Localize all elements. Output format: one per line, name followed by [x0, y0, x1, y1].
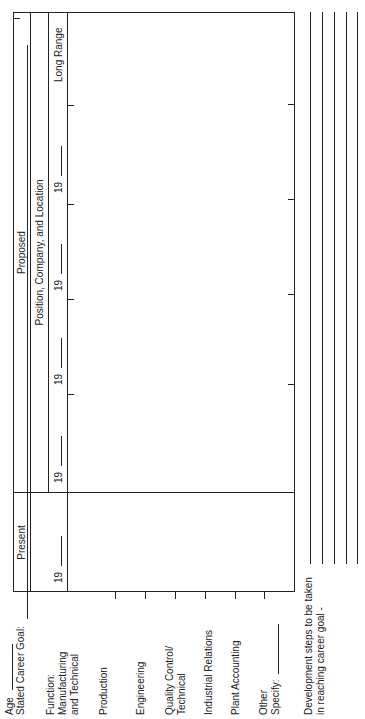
age-label: Age	[4, 697, 15, 715]
col-tick-top	[67, 299, 74, 300]
development-line-5[interactable]	[357, 12, 358, 564]
function-item-other: Other	[258, 690, 270, 715]
row-tick	[145, 592, 146, 599]
year-prefix: 19	[53, 374, 64, 385]
year-blank[interactable]	[61, 436, 62, 466]
career-goal-label: Stated Career Goal:	[15, 626, 26, 715]
row-tick	[205, 592, 206, 599]
col-tick-bottom	[288, 294, 295, 295]
development-line-1[interactable]	[310, 12, 311, 564]
year-prefix: 19	[53, 182, 64, 193]
career-planning-form: Age Stated Career Goal: Function: Manufa…	[0, 0, 365, 719]
position-company-location-label: Position, Company, and Location	[34, 12, 46, 493]
year-prefix: 19	[53, 280, 64, 291]
present-label: Present	[16, 493, 28, 592]
function-item-industrial-relations: Industrial Relations	[203, 630, 215, 715]
development-line-4[interactable]	[346, 12, 347, 564]
function-item-manufacturing: Manufacturing	[57, 652, 69, 715]
function-item-quality-control-2: Technical	[176, 673, 188, 715]
row-tick	[235, 592, 236, 599]
career-table	[13, 12, 295, 592]
development-steps-line2: in reaching career goal -	[315, 607, 327, 715]
specify-blank[interactable]	[278, 624, 279, 674]
function-item-production: Production	[98, 667, 110, 715]
function-item-engineering: Engineering	[135, 662, 147, 715]
present-proposed-divider	[13, 492, 295, 493]
col-tick-top	[67, 204, 74, 205]
year-prefix: 19	[53, 572, 64, 583]
col-tick-bottom	[288, 199, 295, 200]
proposed-year-3[interactable]: 19	[53, 244, 65, 291]
career-goal-row: Stated Career Goal:	[15, 626, 27, 715]
header-line-1	[30, 12, 31, 592]
year-blank[interactable]	[61, 536, 62, 566]
proposed-year-4[interactable]: 19	[53, 146, 65, 193]
header-line-3	[67, 12, 68, 592]
present-year[interactable]: 19	[53, 536, 65, 583]
year-blank[interactable]	[61, 146, 62, 176]
function-item-manufacturing-2: and Technical	[69, 654, 81, 715]
development-steps-line1: Development steps to be taken	[303, 577, 315, 715]
year-blank[interactable]	[61, 244, 62, 274]
development-line-3[interactable]	[334, 12, 335, 564]
year-prefix: 19	[53, 472, 64, 483]
header-line-2	[48, 12, 49, 493]
function-item-quality-control: Quality Control/	[164, 646, 176, 715]
function-item-plant-accounting: Plant Accounting	[230, 641, 242, 716]
proposed-year-2[interactable]: 19	[53, 338, 65, 385]
col-tick-bottom	[288, 384, 295, 385]
row-tick	[264, 592, 265, 599]
long-range-label: Long Range	[53, 28, 65, 83]
col-tick-top	[13, 18, 20, 19]
year-blank[interactable]	[61, 338, 62, 368]
age-blank[interactable]	[12, 644, 13, 690]
col-tick-top	[67, 105, 74, 106]
col-tick-top	[67, 394, 74, 395]
development-line-2[interactable]	[322, 12, 323, 564]
proposed-year-1[interactable]: 19	[53, 436, 65, 483]
proposed-label: Proposed	[16, 12, 28, 493]
col-tick-bottom	[288, 104, 295, 105]
function-item-other-specify: Specify:	[270, 624, 282, 715]
row-tick	[115, 592, 116, 599]
row-tick	[175, 592, 176, 599]
specify-label: Specify:	[270, 679, 281, 715]
function-heading: Function:	[45, 674, 57, 715]
